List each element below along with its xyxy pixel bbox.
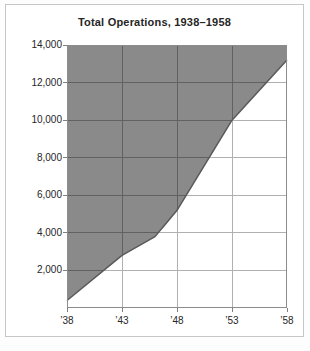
y-axis-label: 10,000: [20, 114, 62, 126]
area-chart: [67, 45, 287, 308]
y-axis-label: 4,000: [20, 227, 62, 239]
y-axis-label: 12,000: [20, 77, 62, 89]
y-axis-label: 8,000: [20, 152, 62, 164]
x-axis-label: ’38: [52, 315, 82, 327]
chart-card: Total Operations, 1938–1958 2,0004,0006,…: [5, 4, 304, 337]
x-axis-label: ’58: [272, 315, 302, 327]
x-axis-label: ’43: [107, 315, 137, 327]
y-axis-label: 14,000: [20, 39, 62, 51]
x-axis-label: ’53: [217, 315, 247, 327]
y-axis-label: 2,000: [20, 264, 62, 276]
x-axis-label: ’48: [162, 315, 192, 327]
y-axis-label: 6,000: [20, 189, 62, 201]
chart-title: Total Operations, 1938–1958: [6, 16, 303, 28]
